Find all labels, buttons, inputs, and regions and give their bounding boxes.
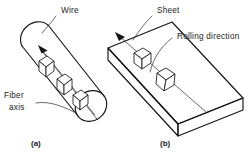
fiber-axis-label-line1: Fiber: [4, 91, 24, 100]
wire-label: Wire: [61, 6, 79, 15]
panel-a-caption: (a): [31, 139, 41, 148]
figure-container: Wire Fiber axis (a): [0, 0, 252, 155]
grain-cube-b1: [134, 48, 151, 69]
sheet-right-face: [178, 98, 243, 136]
fiber-axis-label-line2: axis: [9, 103, 25, 112]
sheet-label: Sheet: [157, 6, 180, 15]
panel-b-caption: (b): [160, 139, 171, 148]
cylinder-top-cap: [21, 22, 48, 46]
panel-b-sheet-group: Sheet Rolling direction (b): [108, 6, 243, 148]
grain-cube-b2: [156, 68, 175, 91]
diagram-canvas: Wire Fiber axis (a): [0, 0, 252, 155]
cylinder-edge-right: [48, 25, 104, 96]
rolling-direction-label: Rolling direction: [177, 32, 240, 41]
rolling-direction-leader-line: [150, 38, 172, 72]
fiber-axis-arrow-head: [38, 45, 48, 54]
panel-a-wire-group: Wire Fiber axis (a): [4, 6, 113, 148]
wire-leader-line: [42, 16, 56, 33]
grain-cube-a1: [39, 56, 54, 77]
